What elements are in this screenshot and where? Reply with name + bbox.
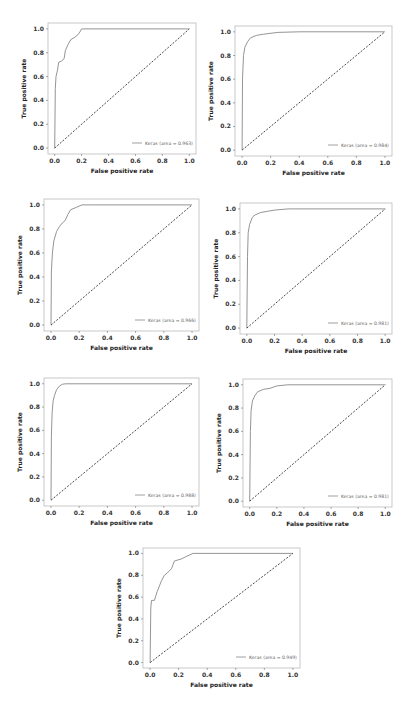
x-tick-label: 0.0: [145, 671, 156, 678]
x-axis-label: False positive rate: [282, 169, 345, 177]
y-tick-label: 0.8: [220, 52, 231, 59]
chance-diagonal-line: [250, 385, 386, 501]
x-tick-label: 0.4: [299, 510, 310, 517]
roc-chart-6: 0.00.20.40.60.81.00.00.20.40.60.81.0Fals…: [213, 375, 398, 533]
y-tick-label: 0.8: [128, 571, 139, 578]
legend-label: Keras (area = 0.966): [148, 318, 196, 323]
y-tick-label: 0.8: [29, 225, 40, 232]
chance-diagonal-line: [247, 209, 385, 328]
y-tick-label: 0.2: [33, 120, 44, 127]
y-tick-label: 0.2: [29, 473, 40, 480]
x-tick-label: 0.6: [325, 337, 336, 344]
x-tick-label: 0.0: [49, 157, 60, 164]
roc-chart-7: 0.00.20.40.60.81.00.00.20.40.60.81.0Fals…: [113, 544, 306, 694]
y-tick-label: 0.2: [225, 300, 236, 307]
y-tick-label: 0.0: [220, 146, 231, 153]
x-tick-label: 0.8: [158, 334, 169, 341]
y-tick-label: 0.0: [29, 321, 40, 328]
chance-diagonal-line: [242, 32, 385, 150]
roc-chart-4: 0.00.20.40.60.81.00.00.20.40.60.81.0Fals…: [210, 199, 398, 360]
x-axis-label: False positive rate: [285, 347, 348, 355]
x-tick-label: 1.0: [288, 671, 299, 678]
x-tick-label: 0.4: [102, 509, 113, 516]
y-tick-label: 0.6: [29, 426, 40, 433]
x-tick-label: 0.2: [269, 337, 280, 344]
y-tick-label: 0.4: [225, 276, 236, 283]
y-tick-label: 1.0: [228, 381, 239, 388]
y-tick-label: 0.0: [33, 144, 44, 151]
y-tick-label: 0.4: [29, 273, 40, 280]
legend-label: Keras (area = 0.988): [148, 493, 196, 498]
y-tick-label: 0.8: [29, 403, 40, 410]
x-tick-label: 0.2: [74, 334, 85, 341]
y-tick-label: 0.8: [228, 404, 239, 411]
y-tick-label: 0.4: [220, 99, 231, 106]
x-tick-label: 0.2: [265, 159, 276, 166]
y-tick-label: 0.6: [29, 249, 40, 256]
y-tick-label: 0.6: [228, 427, 239, 434]
x-tick-label: 0.8: [259, 671, 270, 678]
y-axis-label: True positive rate: [16, 412, 24, 472]
y-tick-label: 0.8: [225, 229, 236, 236]
x-axis-label: False positive rate: [90, 519, 153, 527]
chance-diagonal-line: [51, 205, 192, 325]
y-tick-label: 0.0: [225, 324, 236, 331]
x-tick-label: 0.2: [74, 509, 85, 516]
x-tick-label: 1.0: [380, 337, 391, 344]
x-tick-label: 1.0: [187, 509, 198, 516]
x-axis-label: False positive rate: [91, 167, 154, 175]
y-axis-label: True positive rate: [20, 59, 28, 119]
chance-diagonal-line: [55, 29, 190, 148]
x-tick-label: 0.6: [322, 159, 333, 166]
x-tick-label: 0.4: [103, 157, 114, 164]
x-tick-label: 0.6: [230, 671, 241, 678]
y-tick-label: 0.4: [128, 615, 139, 622]
x-axis-label: False positive rate: [286, 520, 349, 528]
x-tick-label: 0.6: [130, 334, 141, 341]
y-axis-label: True positive rate: [16, 235, 24, 295]
y-tick-label: 0.6: [225, 253, 236, 260]
x-axis-label: False positive rate: [90, 344, 153, 352]
x-tick-label: 0.0: [46, 509, 57, 516]
x-tick-label: 0.4: [297, 337, 308, 344]
x-tick-label: 0.0: [237, 159, 248, 166]
x-tick-label: 0.4: [294, 159, 305, 166]
legend-label: Keras (area = 0.981): [341, 321, 389, 326]
legend-label: Keras (area = 0.963): [145, 141, 193, 146]
x-tick-label: 0.0: [242, 337, 253, 344]
x-tick-label: 0.8: [353, 510, 364, 517]
chance-diagonal-line: [51, 384, 192, 500]
y-tick-label: 0.0: [228, 497, 239, 504]
roc-chart-1: 0.00.20.40.60.81.00.00.20.40.60.81.0Fals…: [18, 19, 202, 180]
x-tick-label: 0.6: [130, 509, 141, 516]
x-tick-label: 0.4: [102, 334, 113, 341]
y-tick-label: 0.2: [128, 637, 139, 644]
y-tick-label: 0.2: [29, 297, 40, 304]
y-tick-label: 1.0: [29, 201, 40, 208]
x-tick-label: 0.2: [272, 510, 283, 517]
roc-chart-2: 0.00.20.40.60.81.00.00.20.40.60.81.0Fals…: [205, 22, 398, 182]
y-tick-label: 0.0: [128, 659, 139, 666]
x-tick-label: 0.8: [351, 159, 362, 166]
y-tick-label: 1.0: [29, 380, 40, 387]
roc-chart-3: 0.00.20.40.60.81.00.00.20.40.60.81.0Fals…: [14, 195, 205, 357]
roc-chart-5: 0.00.20.40.60.81.00.00.20.40.60.81.0Fals…: [14, 374, 205, 532]
x-tick-label: 0.0: [46, 334, 57, 341]
y-tick-label: 0.6: [220, 75, 231, 82]
y-tick-label: 0.8: [33, 49, 44, 56]
x-tick-label: 1.0: [380, 159, 391, 166]
legend-label: Keras (area = 0.949): [249, 655, 297, 660]
y-tick-label: 0.4: [33, 96, 44, 103]
y-tick-label: 0.6: [128, 593, 139, 600]
chance-diagonal-line: [150, 553, 293, 662]
roc-curve-line: [55, 29, 190, 148]
y-axis-label: True positive rate: [207, 61, 215, 121]
y-tick-label: 0.4: [29, 450, 40, 457]
x-tick-label: 0.2: [173, 671, 184, 678]
y-tick-label: 0.4: [228, 451, 239, 458]
y-tick-label: 1.0: [225, 205, 236, 212]
y-axis-label: True positive rate: [215, 413, 223, 473]
x-tick-label: 0.0: [244, 510, 255, 517]
y-tick-label: 0.6: [33, 73, 44, 80]
y-tick-label: 0.2: [228, 474, 239, 481]
